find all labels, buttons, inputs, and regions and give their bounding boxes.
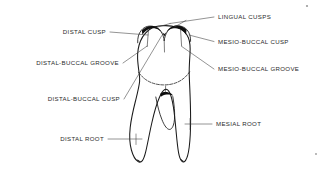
leader-mesio-buccal-cusp [189,35,214,42]
tooth-illustration [130,5,317,162]
scan-speck-right [315,153,317,155]
label-distal-root: DISTAL ROOT [60,135,104,142]
tooth-anatomy-diagram: DISTAL CUSP DISTAL-BUCCAL GROOVE DISTAL-… [0,0,327,178]
leader-lingual-cusps-stem [170,17,214,24]
label-lingual-cusps: LINGUAL CUSPS [218,13,271,20]
scan-speck-top [306,5,308,7]
label-mesio-buccal-groove: MESIO-BUCCAL GROOVE [218,65,299,72]
label-mesial-root: MESIAL ROOT [216,120,261,127]
label-distal-buccal-groove: DISTAL-BUCCAL GROOVE [36,59,119,66]
label-distal-cusp: DISTAL CUSP [63,28,106,35]
label-distal-buccal-cusp: DISTAL-BUCCAL CUSP [48,95,120,102]
root-bifurcation-walls [156,97,175,130]
diagram-canvas: DISTAL CUSP DISTAL-BUCCAL GROOVE DISTAL-… [0,0,327,178]
label-mesio-buccal-cusp: MESIO-BUCCAL CUSP [218,38,289,45]
